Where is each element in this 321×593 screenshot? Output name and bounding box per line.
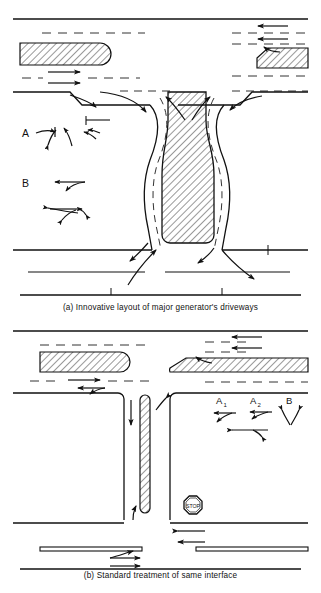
driveway-left-outer-a — [144, 105, 157, 250]
arrow-b-into-median-r — [156, 398, 166, 410]
arrow-cluster-a-A — [36, 116, 110, 146]
arrow-cluster-b-A2 — [232, 412, 272, 437]
traffic-interface-figure: A B — [0, 0, 321, 593]
stop-sign-text: STOP — [186, 503, 201, 509]
label-group-b: A 1 A 2 B — [216, 395, 292, 408]
arrow-cluster-b-A1 — [214, 413, 236, 422]
caption-panel-a: (a) Innovative layout of major generator… — [0, 303, 321, 312]
island-central-vertical-b — [140, 395, 150, 513]
arrow-b-bottom-2 — [110, 551, 133, 558]
exit-curve-a-left2 — [128, 250, 156, 285]
label-b-movement-A2-base: A — [250, 395, 257, 406]
island-upper-left-b — [40, 352, 130, 372]
island-upper-right-b — [170, 358, 308, 372]
exit-curve-a-left — [130, 243, 148, 261]
exit-curve-a-right — [198, 248, 214, 263]
label-a-movement-A: A — [22, 127, 29, 139]
island-lower-right-b — [196, 547, 308, 551]
island-central-hourglass-a — [162, 92, 214, 243]
corridor-north-edge-left-a — [13, 92, 150, 105]
figure-canvas: A B — [0, 0, 321, 593]
exit-curve-a-right2 — [222, 250, 254, 279]
caption-panel-b: (b) Standard treatment of same interface — [0, 571, 321, 580]
corridor-north-edge-left-b — [13, 393, 124, 520]
label-b-movement-A1-base: A — [216, 395, 223, 406]
label-b-movement-A2-sub: 2 — [258, 402, 262, 408]
label-b-movement-B: B — [286, 395, 292, 406]
stop-sign: STOP — [184, 496, 202, 514]
label-a-movement-B: B — [22, 177, 29, 189]
panel-a: A B — [13, 19, 308, 295]
flow-arrow-a-in-left — [100, 92, 146, 112]
arrow-cluster-b-B — [282, 410, 299, 425]
arrow-cluster-a-B — [48, 182, 86, 220]
arrow-b-northbound — [133, 506, 136, 520]
island-lower-left-b — [40, 547, 142, 551]
island-upper-right-a — [257, 48, 308, 68]
label-b-movement-A1-sub: 1 — [224, 402, 228, 408]
island-upper-left-a — [20, 43, 111, 65]
panel-b: STOP A 1 A 2 B — [13, 331, 308, 569]
